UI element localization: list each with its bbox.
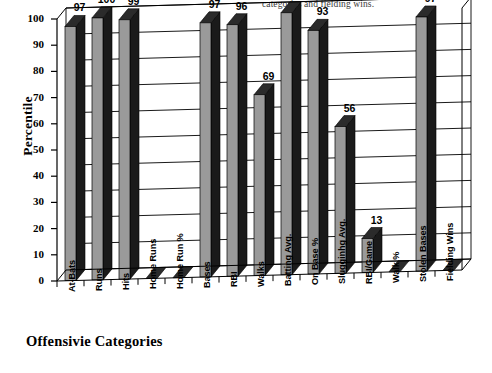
x-tick-label: Walks bbox=[256, 261, 266, 287]
y-tick-label: 30 bbox=[14, 195, 44, 207]
x-tick-label: Runs bbox=[94, 268, 104, 291]
x-tick-label: Hits bbox=[121, 273, 131, 290]
y-tick-label: 0 bbox=[14, 274, 44, 286]
bar-value-label: 69 bbox=[254, 70, 284, 82]
bar-value-label: 96 bbox=[227, 0, 257, 12]
x-tick-label: Bases bbox=[202, 261, 212, 288]
x-tick-label: Fielding Wins bbox=[445, 223, 455, 281]
x-tick-label: At-Bats bbox=[67, 260, 77, 292]
bar-value-label: 56 bbox=[335, 102, 365, 114]
bars-layer bbox=[65, 2, 463, 281]
bar-chart: categories and fielding wins. Percentile… bbox=[0, 0, 492, 373]
x-tick-label: Stolen Bases bbox=[418, 226, 428, 283]
x-tick-label: Home Run % bbox=[175, 233, 185, 289]
x-tick-label: RBI/Game bbox=[364, 240, 374, 283]
x-tick-label: Walk % bbox=[391, 252, 401, 283]
y-tick-label: 100 bbox=[14, 12, 44, 24]
x-tick-label: Batting Avg. bbox=[283, 234, 293, 286]
y-tick-label: 10 bbox=[14, 248, 44, 260]
bar-value-label: 97 bbox=[416, 0, 446, 4]
y-tick-label: 20 bbox=[14, 222, 44, 234]
x-tick-label: RBI bbox=[229, 272, 239, 288]
y-tick-label: 80 bbox=[14, 64, 44, 76]
bar-value-label: 97 bbox=[200, 0, 230, 10]
y-tick-label: 90 bbox=[14, 38, 44, 50]
y-tick-label: 50 bbox=[14, 143, 44, 155]
x-tick-label: On Base % bbox=[310, 238, 320, 285]
y-tick-label: 60 bbox=[14, 117, 44, 129]
bar-value-label: 13 bbox=[362, 214, 392, 226]
y-tick-label: 70 bbox=[14, 91, 44, 103]
chart-canvas bbox=[0, 0, 492, 373]
bar-value-label: 100 bbox=[92, 0, 122, 5]
x-tick-label: Slugginhg Avg. bbox=[337, 219, 347, 284]
bar-value-label: 99 bbox=[119, 0, 149, 7]
bar-value-label: 97 bbox=[65, 1, 95, 13]
x-tick-label: Home Runs bbox=[148, 239, 158, 289]
bar-value-label: 93 bbox=[308, 5, 338, 17]
y-tick-label: 40 bbox=[14, 169, 44, 181]
